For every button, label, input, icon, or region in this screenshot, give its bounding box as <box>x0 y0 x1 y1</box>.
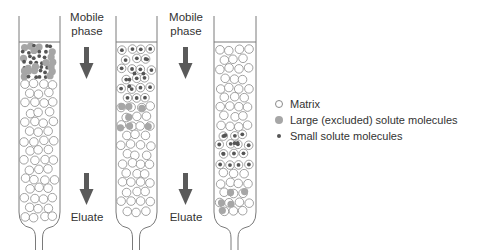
small-molecule <box>135 96 139 100</box>
matrix-bead <box>131 130 140 139</box>
matrix-bead <box>238 206 247 215</box>
matrix-bead <box>140 170 149 179</box>
matrix-bead <box>21 118 30 127</box>
matrix-bead <box>20 155 29 164</box>
arrow-eluate-2: Eluate <box>170 173 203 223</box>
legend-label: Large (excluded) solute molecules <box>290 114 458 126</box>
matrix-bead <box>240 169 249 178</box>
matrix-bead <box>41 176 50 185</box>
legend-label: Small solute molecules <box>290 130 403 142</box>
small-molecule <box>37 50 41 54</box>
matrix-bead <box>136 141 145 150</box>
mobile-phase-label-line1: Mobile <box>169 11 203 23</box>
column-1 <box>19 16 60 250</box>
matrix-bead <box>44 145 53 154</box>
small-molecule <box>119 87 123 91</box>
small-molecule <box>133 72 137 76</box>
matrix-bead <box>49 156 58 165</box>
small-molecule <box>34 75 38 79</box>
matrix-bead <box>136 178 145 187</box>
matrix-bead <box>136 160 145 169</box>
matrix-bead <box>49 117 58 126</box>
matrix-bead <box>226 178 235 187</box>
large-molecule <box>46 72 53 79</box>
small-molecule <box>221 152 225 156</box>
matrix-bead <box>244 179 253 188</box>
matrix-bead <box>20 138 29 147</box>
small-molecule <box>223 134 227 138</box>
matrix-bead <box>141 187 150 196</box>
matrix-bead <box>118 178 127 187</box>
matrix-bead <box>25 166 34 175</box>
matrix-bead <box>147 142 156 151</box>
matrix-bead <box>229 207 238 216</box>
matrix-bead-icon <box>272 97 286 111</box>
matrix-bead <box>217 121 226 130</box>
matrix-bead <box>117 141 126 150</box>
small-molecule <box>27 75 31 79</box>
matrix-bead <box>239 112 248 121</box>
matrix-bead <box>25 203 34 212</box>
matrix-bead <box>216 65 225 74</box>
matrix-bead <box>216 102 225 111</box>
small-molecule <box>43 71 47 75</box>
matrix-bead <box>220 93 229 102</box>
matrix-bead <box>235 198 244 207</box>
large-molecule <box>125 103 132 110</box>
matrix-bead <box>21 174 30 183</box>
matrix-bead <box>45 88 54 97</box>
matrix-bead <box>146 102 155 111</box>
small-molecule <box>130 67 134 71</box>
matrix-bead <box>30 175 39 184</box>
small-molecule <box>236 141 240 145</box>
matrix-bead <box>118 160 127 169</box>
matrix-bead <box>31 98 40 107</box>
matrix-bead <box>243 103 252 112</box>
matrix-bead <box>44 204 53 213</box>
matrix-bead <box>122 169 131 178</box>
mobile-phase-label-line2: phase <box>170 25 201 37</box>
small-molecule <box>139 86 143 90</box>
small-molecule <box>39 69 43 73</box>
small-molecule <box>237 163 241 167</box>
small-molecule <box>242 151 246 155</box>
eluate-label: Eluate <box>170 211 203 223</box>
large-molecule <box>125 114 132 121</box>
large-molecule <box>118 103 125 110</box>
small-molecule <box>27 51 31 55</box>
small-molecule <box>218 163 222 167</box>
matrix-bead <box>231 112 240 121</box>
matrix-bead <box>31 156 40 165</box>
small-molecule <box>44 50 48 54</box>
column-3 <box>214 16 256 250</box>
legend: Matrix Large (excluded) solute molecules… <box>272 96 458 144</box>
small-molecule <box>233 134 237 138</box>
matrix-bead <box>44 127 53 136</box>
matrix-bead <box>142 112 151 121</box>
matrix-bead <box>29 213 38 222</box>
matrix-bead <box>133 187 142 196</box>
small-molecule-icon <box>272 129 286 143</box>
matrix-bead <box>29 79 38 88</box>
matrix-bead <box>117 197 126 206</box>
large-molecule <box>219 207 226 214</box>
matrix-bead <box>21 98 30 107</box>
small-molecule <box>247 163 251 167</box>
small-molecule <box>142 72 146 76</box>
matrix-bead <box>128 159 137 168</box>
matrix-bead <box>219 168 228 177</box>
small-molecule <box>135 76 139 80</box>
matrix-bead <box>141 131 150 140</box>
matrix-bead <box>21 213 30 222</box>
small-molecule <box>143 76 147 80</box>
matrix-bead <box>127 197 136 206</box>
small-molecule <box>28 54 32 58</box>
down-arrow-icon <box>80 47 94 79</box>
legend-item-large: Large (excluded) solute molecules <box>272 112 458 128</box>
mobile-phase-label-line2: phase <box>71 25 102 37</box>
matrix-bead <box>216 180 225 189</box>
small-molecule <box>229 142 233 146</box>
matrix-bead <box>30 138 39 147</box>
small-molecule <box>120 48 124 52</box>
matrix-bead <box>225 64 234 73</box>
